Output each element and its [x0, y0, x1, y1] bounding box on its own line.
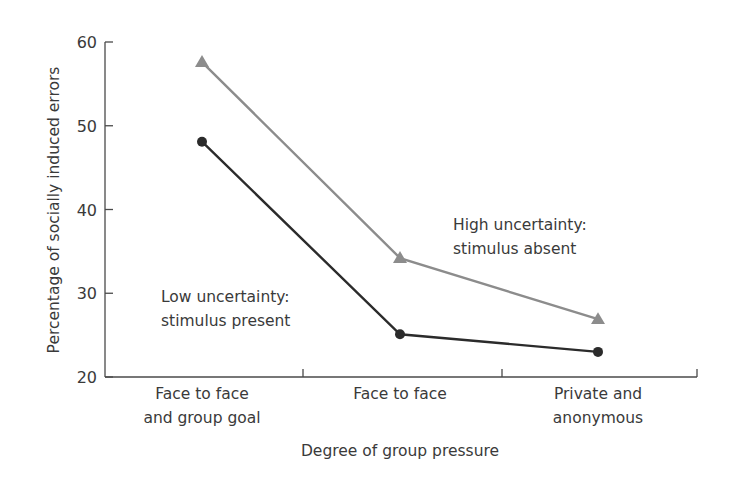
y-tick-label: 40	[77, 201, 97, 220]
x-axis-title: Degree of group pressure	[301, 442, 499, 460]
y-tick-label: 50	[77, 117, 97, 136]
series-annotation: High uncertainty:	[453, 216, 587, 234]
y-tick-label: 20	[77, 368, 97, 387]
x-category-label: Face to face	[155, 385, 248, 403]
x-category-label: Face to face	[353, 385, 446, 403]
circle-marker	[593, 347, 603, 357]
series-annotation: stimulus absent	[453, 240, 576, 258]
y-tick-label: 30	[77, 284, 97, 303]
y-tick-label: 60	[77, 33, 97, 52]
circle-marker	[197, 137, 207, 147]
circle-marker	[395, 329, 405, 339]
series-annotation: Low uncertainty:	[161, 288, 290, 306]
y-axis-title: Percentage of socially induced errors	[45, 67, 63, 354]
x-category-label: and group goal	[143, 409, 260, 427]
line-chart: 2030405060Face to faceand group goalFace…	[0, 0, 737, 480]
triangle-marker	[195, 55, 209, 67]
x-category-label: Private and	[554, 385, 642, 403]
series-annotation: stimulus present	[161, 312, 290, 330]
series-line	[202, 62, 598, 319]
axes: 2030405060Face to faceand group goalFace…	[45, 33, 697, 460]
x-category-label: anonymous	[553, 409, 643, 427]
